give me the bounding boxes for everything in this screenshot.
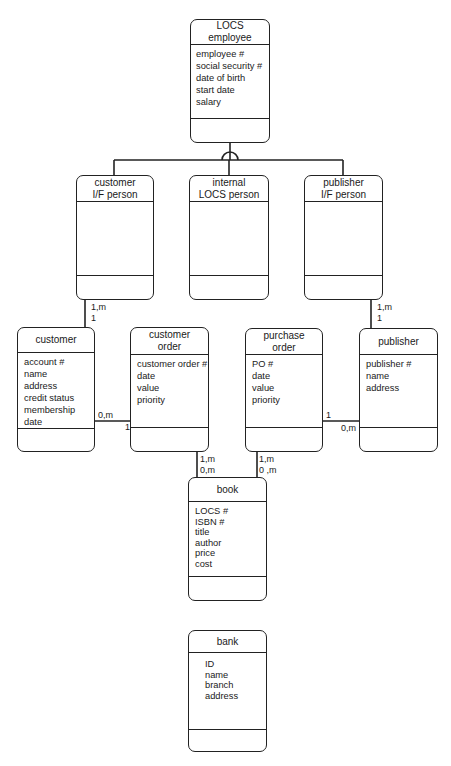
entity-footer <box>131 427 208 451</box>
entity-header: LOCS employee <box>191 20 269 45</box>
cardinality-label: 1 <box>326 410 331 421</box>
cardinality-label: 1 <box>377 313 382 324</box>
attribute: publisher # <box>366 358 437 370</box>
cardinality-label: 0,m <box>341 423 356 434</box>
entity-title: publisher <box>305 177 382 189</box>
attribute: branch <box>205 680 266 691</box>
attribute: account # <box>24 356 94 368</box>
attribute: author <box>195 538 266 549</box>
attribute: address <box>205 691 266 702</box>
entity-footer <box>18 428 94 451</box>
attribute: name <box>366 370 437 382</box>
entity-footer <box>77 275 153 299</box>
entity-title: I/F person <box>305 189 382 201</box>
cardinality-label: 1,m <box>200 454 215 465</box>
attribute-list: PO # date value priority <box>246 355 322 427</box>
entity-title: employee <box>191 32 269 44</box>
attribute-list: account # name address credit status mem… <box>18 353 94 428</box>
entity-header: book <box>189 478 266 502</box>
entity-bank[interactable]: bank ID name branch address <box>188 630 267 752</box>
entity-title: bank <box>189 636 266 648</box>
attribute: address <box>366 382 437 394</box>
entity-header: purchase order <box>246 329 322 355</box>
entity-footer <box>190 275 268 299</box>
entity-title: purchase <box>246 330 322 342</box>
attribute: date <box>252 370 322 382</box>
attribute: customer order # <box>137 358 208 370</box>
attribute: LOCS # <box>195 506 266 517</box>
attribute-list: LOCS # ISBN # title author price cost <box>189 502 266 576</box>
entity-title: LOCS <box>191 20 269 32</box>
attribute: credit status <box>24 392 94 404</box>
attribute-list: ID name branch address <box>189 653 266 729</box>
attribute: value <box>252 382 322 394</box>
entity-book[interactable]: book LOCS # ISBN # title author price co… <box>188 477 267 601</box>
attribute-list: customer order # date value priority <box>131 355 208 427</box>
entity-customer-order[interactable]: customer order customer order # date val… <box>130 327 209 452</box>
attribute: cost <box>195 559 266 570</box>
entity-customer[interactable]: customer account # name address credit s… <box>17 327 95 452</box>
attribute: priority <box>252 394 322 406</box>
entity-purchase-order[interactable]: purchase order PO # date value priority <box>245 328 323 452</box>
entity-header: publisher I/F person <box>305 176 382 202</box>
cardinality-label: 1,m <box>91 302 106 313</box>
attribute: priority <box>137 394 208 406</box>
entity-publisher-if-person[interactable]: publisher I/F person <box>304 175 383 300</box>
entity-header: internal LOCS person <box>190 176 268 202</box>
entity-footer <box>191 118 269 142</box>
attribute-list: publisher # name address <box>360 355 437 427</box>
attribute: address <box>24 380 94 392</box>
entity-title: publisher <box>360 336 437 348</box>
attribute: social security # <box>196 60 269 72</box>
cardinality-label: 1 <box>91 313 96 324</box>
entity-footer <box>360 427 437 451</box>
entity-title: customer <box>77 177 153 189</box>
attribute: title <box>195 527 266 538</box>
cardinality-label: 0 ,m <box>259 465 277 476</box>
attribute: salary <box>196 96 269 108</box>
attribute: membership date <box>24 404 94 428</box>
entity-title: LOCS person <box>190 189 268 201</box>
attribute: start date <box>196 84 269 96</box>
attribute-list <box>77 202 153 275</box>
attribute: ID <box>205 659 266 670</box>
entity-title: I/F person <box>77 189 153 201</box>
entity-footer <box>189 576 266 600</box>
entity-footer <box>246 427 322 451</box>
entity-publisher[interactable]: publisher publisher # name address <box>359 328 438 452</box>
attribute-list <box>305 202 382 275</box>
entity-title: order <box>131 341 208 353</box>
entity-header: publisher <box>360 329 437 355</box>
entity-locs-employee[interactable]: LOCS employee employee # social security… <box>190 19 270 143</box>
entity-title: internal <box>190 177 268 189</box>
entity-header: bank <box>189 631 266 653</box>
entity-header: customer <box>18 328 94 353</box>
cardinality-label: 0,m <box>200 465 215 476</box>
entity-footer <box>305 275 382 299</box>
attribute: PO # <box>252 358 322 370</box>
entity-title: customer <box>131 329 208 341</box>
entity-internal-locs-person[interactable]: internal LOCS person <box>189 175 269 300</box>
attribute: value <box>137 382 208 394</box>
entity-header: customer order <box>131 328 208 355</box>
cardinality-label: 1,m <box>377 302 392 313</box>
attribute-list: employee # social security # date of bir… <box>191 45 269 118</box>
attribute: name <box>24 368 94 380</box>
entity-header: customer I/F person <box>77 176 153 202</box>
attribute: date <box>137 370 208 382</box>
entity-title: customer <box>18 334 94 346</box>
entity-customer-if-person[interactable]: customer I/F person <box>76 175 154 300</box>
attribute: employee # <box>196 48 269 60</box>
attribute-list <box>190 202 268 275</box>
entity-footer <box>189 729 266 751</box>
attribute: date of birth <box>196 72 269 84</box>
attribute: price <box>195 548 266 559</box>
entity-title: order <box>246 342 322 354</box>
entity-title: book <box>189 484 266 496</box>
attribute: ISBN # <box>195 517 266 528</box>
cardinality-label: 1,m <box>259 454 274 465</box>
cardinality-label: 0,m <box>98 410 113 421</box>
cardinality-label: 1 <box>125 422 130 433</box>
attribute: name <box>205 670 266 681</box>
